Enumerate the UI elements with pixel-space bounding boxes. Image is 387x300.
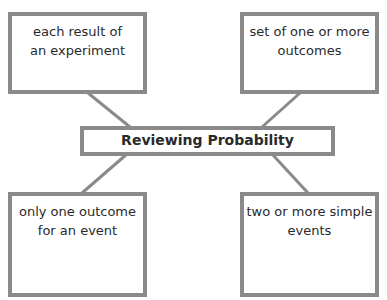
connector-bottom-left [82, 154, 127, 193]
node-text-line: set of one or more [244, 22, 375, 41]
node-bottom-right: two or more simple events [240, 192, 379, 297]
node-text-line: events [244, 221, 375, 240]
connector-top-left [88, 93, 130, 127]
connector-top-right [262, 93, 300, 127]
concept-map: each result of an experiment set of one … [0, 0, 387, 300]
node-top-right: set of one or more outcomes [240, 12, 379, 94]
node-text-line: only one outcome [12, 202, 143, 221]
node-bottom-left: only one outcome for an event [8, 192, 147, 297]
node-top-left: each result of an experiment [8, 12, 147, 94]
node-text-line: two or more simple [244, 202, 375, 221]
node-text-line: for an event [12, 221, 143, 240]
node-text-line: outcomes [244, 41, 375, 60]
node-text-line: each result of [12, 22, 143, 41]
connector-bottom-right [272, 154, 308, 193]
central-topic-label: Reviewing Probability [121, 132, 294, 148]
node-text-line: an experiment [12, 41, 143, 60]
central-topic: Reviewing Probability [80, 126, 335, 156]
